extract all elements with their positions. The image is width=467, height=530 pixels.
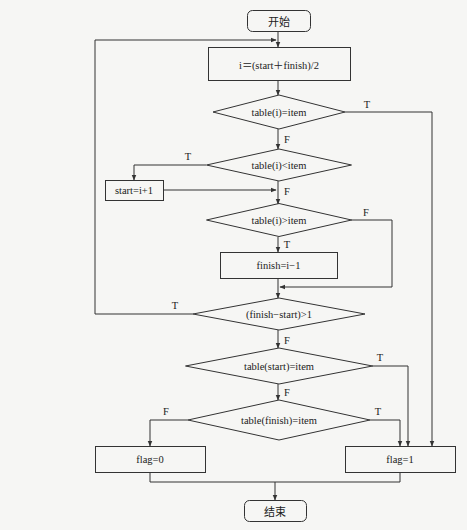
edge-label-start_eq_check: F: [284, 387, 290, 398]
edge-eq_check-to-flag_one: [345, 112, 432, 446]
flowchart-canvas: [0, 0, 467, 530]
edge-label-lt_check: T: [185, 151, 191, 162]
edge-label-range_check: F: [284, 335, 290, 346]
node-label-flag_one: flag=1: [386, 454, 414, 465]
edge-label-start_eq_check: T: [377, 352, 383, 363]
node-label-end: 结束: [264, 503, 286, 519]
node-label-start: 开始: [268, 13, 290, 29]
edge-label-finish_eq_check: T: [375, 406, 381, 417]
node-label-lt_check: table(i)<item: [252, 160, 307, 171]
node-label-range_check: (finish−start)>1: [246, 309, 312, 320]
edge-label-gt_check: F: [363, 207, 369, 218]
edge-lt_check-to-set_start: [134, 165, 206, 180]
node-label-start_eq_check: table(start)=item: [244, 361, 314, 372]
edge-label-gt_check: T: [284, 239, 290, 250]
node-label-set_start: start=i+1: [115, 185, 153, 196]
edge-finish_eq_check-to-flag_one: [370, 420, 400, 446]
node-label-eq_check: table(i)=item: [252, 107, 307, 118]
node-label-set_finish: finish=i−1: [257, 260, 301, 271]
edge-flag_zero-to-end: [150, 472, 275, 500]
edge-finish_eq_check-to-flag_zero: [150, 420, 188, 446]
node-label-calc_mid: i＝(start＋finish)/2: [239, 56, 319, 71]
edge-label-eq_check: F: [284, 134, 290, 145]
edge-label-range_check: T: [172, 300, 178, 311]
edge-label-finish_eq_check: F: [163, 406, 169, 417]
edge-gt_check-to-range_check: [280, 220, 392, 287]
node-label-finish_eq_check: table(finish)=item: [241, 415, 317, 426]
node-label-flag_zero: flag=0: [136, 454, 164, 465]
edge-label-lt_check: F: [284, 186, 290, 197]
edge-range_check-to-calc_mid: [95, 40, 276, 314]
node-label-gt_check: table(i)>item: [252, 215, 307, 226]
edge-label-eq_check: T: [364, 99, 370, 110]
edge-flag_one-to-end: [275, 472, 400, 482]
